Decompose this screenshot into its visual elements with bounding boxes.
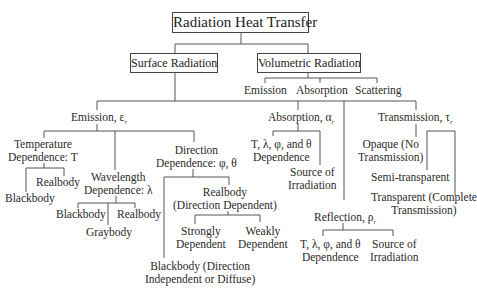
subscript: r (124, 118, 127, 126)
node-vol-absorption: Absorption (296, 84, 348, 97)
emission-label: Emission, ε (71, 111, 124, 123)
node-wave-blackbody: Blackbody (56, 208, 106, 221)
label-line: Dependence (253, 151, 310, 163)
node-temperature-dependence: TemperatureDependence: T (8, 138, 78, 164)
label-line: Realbody (203, 186, 247, 198)
connector (175, 33, 308, 53)
subscript: r (450, 118, 453, 126)
node-reflection-dependence: T, λ, φ, and θDependence (300, 238, 361, 264)
label-line: Dependence (302, 251, 359, 263)
label-line: Wavelength (91, 171, 146, 183)
label-line: Dependence: λ (84, 184, 152, 196)
label-line: Strongly (181, 225, 221, 237)
connector (265, 73, 377, 83)
node-semi-transparent: Semi-transparent (371, 171, 450, 184)
node-reflection-source: Source ofIrradiation (370, 238, 419, 264)
reflection-label: Reflection, ρ (314, 211, 373, 223)
node-temp-blackbody: Blackbody (5, 192, 55, 205)
label-line: Independent or Diffuse) (145, 273, 255, 285)
node-absorption: Absorption, αr (268, 111, 334, 129)
node-emission: Emission, εr (71, 111, 127, 129)
node-wave-graybody: Graybody (86, 226, 132, 239)
label-line: Blackbody (Direction (150, 260, 250, 272)
label-line: Transparent (Complete (371, 191, 477, 203)
label-line: T, λ, φ, and θ (300, 238, 361, 250)
label-line: (Direction Dependent) (173, 199, 277, 211)
node-direction-dependence: DirectionDependence: φ, θ (156, 144, 237, 170)
node-opaque: Opaque (NoTransmission) (358, 138, 423, 164)
label-line: Dependence: φ, θ (156, 157, 237, 169)
node-reflection: Reflection, ρr (314, 211, 376, 229)
node-transparent: Transparent (CompleteTransmission) (371, 191, 477, 217)
node-volumetric-radiation: Volumetric Radiation (257, 53, 361, 73)
label-line: Irradiation (288, 179, 337, 191)
node-dir-realbody: Realbody(Direction Dependent) (173, 186, 277, 212)
node-temp-realbody: Realbody (36, 176, 80, 189)
label-line: Transmission) (358, 151, 423, 163)
node-absorption-dependence: T, λ, φ, and θDependence (251, 138, 312, 164)
node-wavelength-dependence: WavelengthDependence: λ (84, 171, 152, 197)
node-absorption-source: Source ofIrradiation (288, 166, 337, 192)
root-node-radiation-heat-transfer: Radiation Heat Transfer (172, 12, 309, 33)
node-strongly-dependent: StronglyDependent (176, 225, 226, 251)
subscript: r (373, 218, 376, 226)
node-weakly-dependent: WeaklyDependent (238, 225, 288, 251)
label-line: Weakly (245, 225, 280, 237)
node-transmission: Transmission, τr (378, 111, 453, 129)
label-line: Source of (290, 166, 334, 178)
node-wave-realbody: Realbody (117, 208, 161, 221)
subscript: r (332, 118, 335, 126)
label-line: Temperature (14, 138, 72, 150)
label-line: Dependence: T (8, 151, 78, 163)
absorption-label: Absorption, α (268, 111, 332, 123)
label-line: Direction (175, 144, 218, 156)
connector (195, 211, 260, 224)
label-line: Opaque (No (362, 138, 419, 150)
node-surface-radiation: Surface Radiation (130, 53, 218, 73)
node-dir-blackbody: Blackbody (DirectionIndependent or Diffu… (145, 260, 255, 286)
label-line: Dependent (238, 238, 288, 250)
label-line: Source of (372, 238, 416, 250)
node-vol-emission: Emission (244, 84, 287, 97)
label-line: Transmission) (391, 204, 456, 216)
label-line: Irradiation (370, 251, 419, 263)
label-line: Dependent (176, 238, 226, 250)
label-line: T, λ, φ, and θ (251, 138, 312, 150)
node-vol-scattering: Scattering (355, 84, 402, 97)
transmission-label: Transmission, τ (378, 111, 450, 123)
